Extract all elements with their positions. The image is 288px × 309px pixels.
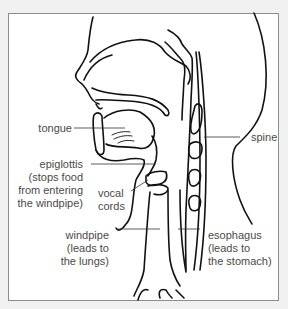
label-epiglottis-line-3: from entering <box>10 184 83 197</box>
bronchus-left <box>138 289 148 300</box>
label-vocal-cords: vocal cords <box>98 187 125 213</box>
lower-lip <box>93 113 104 155</box>
nasal-cavity <box>84 40 190 84</box>
label-windpipe: windpipe (leads to the lungs) <box>50 229 109 268</box>
label-tongue: tongue <box>30 122 72 135</box>
label-esophagus-line-1: esophagus <box>208 229 272 242</box>
label-epiglottis: epiglottis (stops food from entering the… <box>10 158 83 210</box>
windpipe-right <box>168 190 180 286</box>
label-tongue-line: tongue <box>30 122 72 135</box>
bronchus-mid <box>159 289 172 298</box>
leader-vocal-cords <box>131 180 148 191</box>
label-epiglottis-line-1: epiglottis <box>10 158 83 171</box>
bronchus-right <box>176 290 184 298</box>
larynx <box>146 171 167 185</box>
label-epiglottis-line-2: (stops food <box>10 171 83 184</box>
label-spine-line: spine <box>251 131 277 144</box>
label-windpipe-line-1: windpipe <box>50 229 109 242</box>
label-esophagus-line-3: the stomach) <box>208 255 272 268</box>
label-spine: spine <box>251 131 277 144</box>
tongue-texture <box>112 132 134 143</box>
windpipe-left <box>134 192 150 296</box>
spinal-line-1 <box>194 52 200 270</box>
label-epiglottis-line-4: the windpipe) <box>10 197 83 210</box>
face-profile <box>76 17 99 104</box>
pharynx-inner <box>165 42 185 120</box>
label-esophagus: esophagus (leads to the stomach) <box>208 229 272 268</box>
hard-palate <box>92 88 169 116</box>
label-vocal-cords-line-2: cords <box>98 200 125 213</box>
label-esophagus-line-2: (leads to <box>208 242 272 255</box>
label-windpipe-line-2: (leads to <box>50 242 109 255</box>
larynx-lower <box>148 185 168 195</box>
back-of-head <box>233 13 267 224</box>
label-vocal-cords-line-1: vocal <box>98 187 125 200</box>
label-windpipe-line-3: the lungs) <box>50 255 109 268</box>
vertebra-3 <box>189 169 201 186</box>
tongue-shape <box>104 110 154 149</box>
